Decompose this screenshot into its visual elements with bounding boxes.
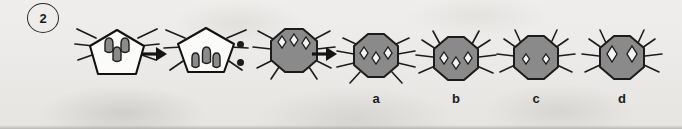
- option-b-label: b: [441, 92, 471, 105]
- option-c-label: c: [521, 92, 551, 105]
- option-d-figure[interactable]: [579, 28, 665, 90]
- option-a-figure[interactable]: [333, 28, 419, 90]
- gray-octagon-bug-option-a-icon: [333, 28, 419, 90]
- gray-octagon-bug-option-c-icon: [493, 28, 579, 90]
- question-number-badge: 2: [27, 3, 59, 33]
- option-c-figure[interactable]: [493, 28, 579, 90]
- option-b-figure[interactable]: [413, 28, 499, 90]
- gray-octagon-bug-option-b-icon: [413, 28, 499, 90]
- colon-dot-lower-icon: [237, 59, 244, 66]
- option-a-label: a: [361, 92, 391, 105]
- colon-dot-upper-icon: [237, 41, 244, 48]
- gray-octagon-bug-option-d-icon: [579, 28, 665, 90]
- worksheet-figure-analogy-item: 2: [0, 0, 682, 129]
- option-d-label: d: [607, 92, 637, 105]
- page-bottom-edge: [0, 125, 682, 129]
- question-number: 2: [39, 12, 46, 25]
- ratio-colon: [236, 40, 246, 68]
